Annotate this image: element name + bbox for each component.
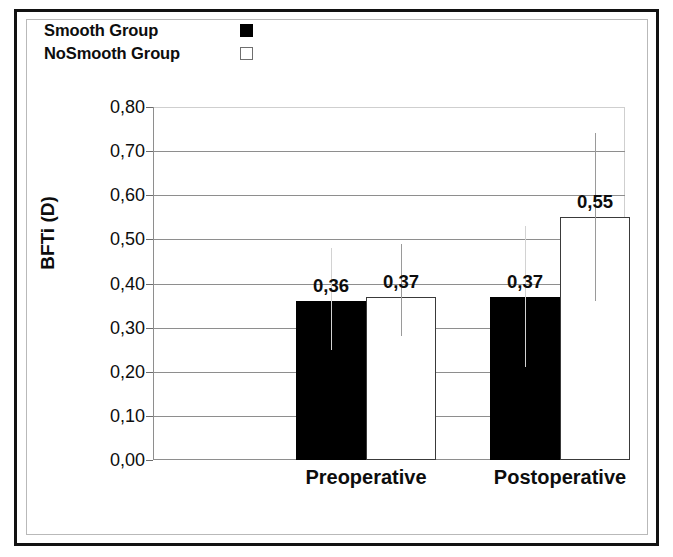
y-axis-tick-mark [146, 239, 153, 240]
bar-value-label: 0,36 [296, 275, 366, 297]
error-bar [331, 248, 332, 349]
legend-label-smooth-group: Smooth Group [44, 21, 158, 39]
y-axis-tick-label: 0,20 [83, 361, 145, 382]
legend-item-nosmooth-group: NoSmooth Group [44, 42, 304, 65]
y-axis-tick-mark [146, 151, 153, 152]
legend-label-nosmooth-group: NoSmooth Group [44, 44, 180, 62]
gridline [153, 151, 625, 152]
legend-marker-hollow-square-icon [240, 47, 253, 60]
y-axis-tick-label: 0,50 [83, 229, 145, 250]
y-axis-tick-label: 0,40 [83, 273, 145, 294]
y-axis-tick-label: 0,80 [83, 97, 145, 118]
gridline [153, 195, 625, 196]
y-axis-tick-label: 0,70 [83, 141, 145, 162]
y-axis-tick-label: 0,60 [83, 185, 145, 206]
legend-item-smooth-group: Smooth Group [44, 19, 304, 42]
legend-marker-filled-square-icon [240, 24, 253, 37]
x-axis-category-labels: PreoperativePostoperative [153, 466, 625, 500]
y-axis-tick-mark [146, 460, 153, 461]
plot-area: 0,360,370,370,55 [153, 107, 625, 460]
y-axis-tick-mark [146, 107, 153, 108]
y-axis-tick-mark [146, 372, 153, 373]
error-bar [595, 133, 596, 301]
x-axis-category-postoperative: Postoperative [450, 466, 670, 489]
y-axis-tick-mark [146, 416, 153, 417]
bar-value-label: 0,37 [366, 271, 436, 293]
gridline [153, 239, 625, 240]
y-axis-title: BFTi (D) [37, 173, 59, 293]
y-axis-tick-mark [146, 328, 153, 329]
chart-legend: Smooth Group NoSmooth Group [44, 19, 304, 65]
x-axis-category-preoperative: Preoperative [256, 466, 476, 489]
y-axis-tick-mark [146, 284, 153, 285]
error-bar [525, 226, 526, 367]
y-axis-tick-label: 0,00 [83, 450, 145, 471]
bar-value-label: 0,55 [560, 191, 630, 213]
bar-value-label: 0,37 [490, 271, 560, 293]
y-axis-tick-labels: 0,800,700,600,500,400,300,200,100,00 [79, 107, 145, 460]
y-axis-tick-label: 0,10 [83, 405, 145, 426]
y-axis-tick-mark [146, 195, 153, 196]
y-axis-tick-label: 0,30 [83, 317, 145, 338]
